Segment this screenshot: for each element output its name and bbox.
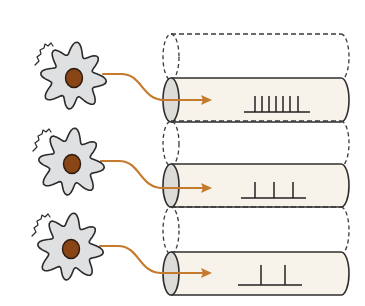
sensory-cell	[39, 128, 104, 195]
stimulus-squiggle-icon	[35, 43, 53, 65]
cell-nucleus	[63, 240, 80, 259]
neuron-row-medium-rate	[33, 121, 349, 207]
sensory-cell	[38, 213, 103, 280]
nerve-fiber-tube	[163, 164, 349, 207]
sensory-cell	[41, 42, 106, 109]
cell-nucleus	[66, 69, 83, 88]
cell-nucleus	[64, 155, 81, 174]
neuron-row-low-rate	[32, 207, 349, 295]
stimulus-squiggle-icon	[33, 129, 51, 151]
dashed-tube-outline	[163, 207, 349, 254]
dashed-tube-outline	[163, 34, 349, 80]
neuron-firing-diagram	[0, 0, 365, 306]
stimulus-squiggle-icon	[32, 214, 50, 236]
dashed-tube-outline	[163, 121, 349, 166]
tube-cross-section	[163, 164, 179, 207]
neuron-row-high-rate	[35, 34, 349, 122]
